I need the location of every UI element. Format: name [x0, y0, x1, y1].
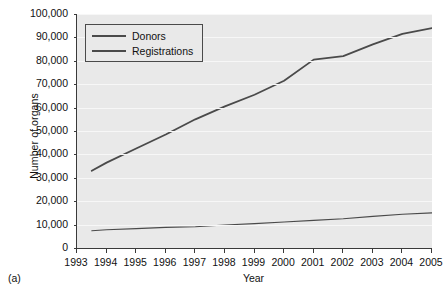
- y-tick-label: 70,000: [12, 77, 68, 89]
- y-tick-label: 50,000: [12, 124, 68, 136]
- legend-swatch-donors: [92, 31, 126, 41]
- gridline: [77, 14, 432, 15]
- x-tick-mark: [106, 248, 107, 253]
- x-tick-mark: [224, 248, 225, 253]
- y-tick-label: 30,000: [12, 171, 68, 183]
- y-tick-label: 60,000: [12, 101, 68, 113]
- gridline: [77, 201, 432, 202]
- legend-label-donors: Donors: [132, 30, 166, 42]
- figure-organ-donation-chart: Number of organs 010,00020,00030,00040,0…: [0, 0, 447, 290]
- y-tick-label: 20,000: [12, 194, 68, 206]
- y-tick-label: 40,000: [12, 147, 68, 159]
- x-tick-mark: [342, 248, 343, 253]
- x-tick-mark: [313, 248, 314, 253]
- figure-caption: (a): [8, 272, 21, 284]
- legend-swatch-registrations: [92, 46, 126, 56]
- x-tick-mark: [194, 248, 195, 253]
- x-tick-mark: [431, 248, 432, 253]
- gridline: [77, 84, 432, 85]
- gridline: [77, 225, 432, 226]
- y-tick-label: 90,000: [12, 30, 68, 42]
- x-axis-label: Year: [76, 272, 431, 284]
- legend-label-registrations: Registrations: [132, 45, 193, 57]
- x-tick-label: 2005: [414, 256, 447, 268]
- chart-legend: Donors Registrations: [85, 24, 203, 62]
- x-tick-mark: [254, 248, 255, 253]
- gridline: [77, 154, 432, 155]
- x-tick-mark: [165, 248, 166, 253]
- x-tick-mark: [372, 248, 373, 253]
- legend-item-registrations: Registrations: [92, 43, 193, 59]
- y-axis-ticks: 010,00020,00030,00040,00050,00060,00070,…: [8, 0, 68, 290]
- gridline: [77, 178, 432, 179]
- series-line-donors: [92, 213, 432, 231]
- x-tick-mark: [401, 248, 402, 253]
- y-tick-label: 10,000: [12, 218, 68, 230]
- gridline: [77, 108, 432, 109]
- x-tick-mark: [76, 248, 77, 253]
- x-tick-mark: [283, 248, 284, 253]
- y-tick-label: 100,000: [12, 7, 68, 19]
- y-tick-label: 80,000: [12, 54, 68, 66]
- x-tick-mark: [135, 248, 136, 253]
- gridline: [77, 131, 432, 132]
- y-tick-label: 0: [12, 241, 68, 253]
- legend-item-donors: Donors: [92, 28, 166, 44]
